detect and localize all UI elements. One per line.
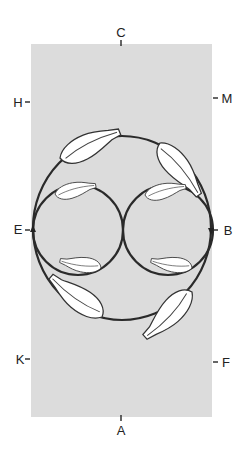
marker-h: H	[13, 96, 22, 109]
marker-e: E	[14, 223, 23, 236]
marker-k: K	[16, 353, 25, 366]
marker-f: F	[222, 356, 230, 369]
arena	[31, 44, 212, 417]
marker-m: M	[222, 92, 233, 105]
marker-c: C	[116, 26, 125, 39]
marker-a: A	[117, 424, 126, 437]
marker-b: B	[224, 224, 233, 237]
arena-diagram	[0, 0, 249, 456]
